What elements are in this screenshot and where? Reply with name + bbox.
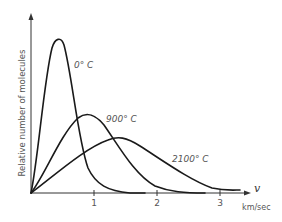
y-axis-arrow-icon bbox=[29, 13, 34, 20]
x-axis-arrow-icon bbox=[244, 191, 251, 196]
curve-label-0c: 0° C bbox=[74, 60, 94, 70]
maxwell-distribution-chart: 1 2 3 Relative number of molecules v km/… bbox=[0, 0, 282, 222]
x-tick-label-1: 1 bbox=[91, 198, 97, 208]
curve-2100c bbox=[31, 138, 240, 193]
curve-label-900c: 900° C bbox=[106, 114, 138, 124]
x-axis-unit: km/sec bbox=[242, 203, 271, 212]
x-tick-label-3: 3 bbox=[217, 198, 223, 208]
x-axis-label: v bbox=[254, 182, 261, 195]
x-tick-label-2: 2 bbox=[154, 198, 160, 208]
y-axis-label: Relative number of molecules bbox=[17, 49, 27, 176]
curve-label-2100c: 2100° C bbox=[172, 154, 209, 164]
